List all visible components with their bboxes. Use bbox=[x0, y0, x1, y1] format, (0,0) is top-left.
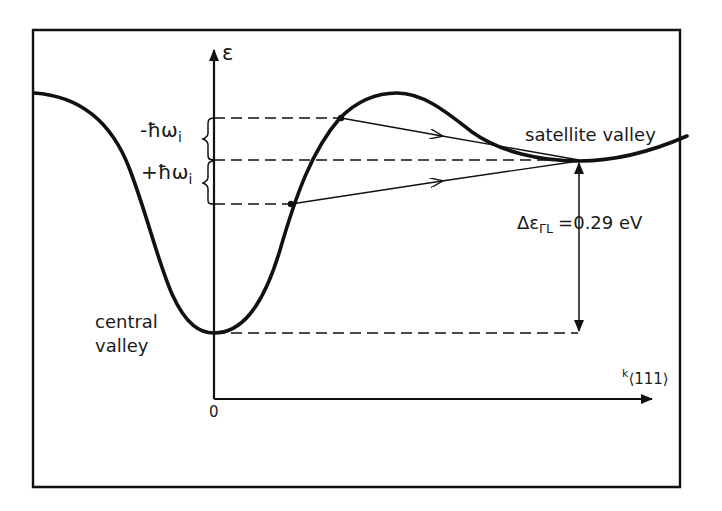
delta-value: =0.29 eV bbox=[558, 212, 642, 233]
x-axis-label-direction: ⟨111⟩ bbox=[628, 370, 668, 388]
x-axis-label-k: k bbox=[622, 367, 628, 380]
phonon-braces bbox=[203, 118, 214, 204]
plus-phonon-label: +ħωi bbox=[141, 162, 192, 186]
plus-phonon-subscript: i bbox=[188, 171, 192, 187]
x-axis-label: k⟨111⟩ bbox=[622, 372, 669, 387]
figure-frame bbox=[33, 30, 680, 487]
delta-subscript: ΓL bbox=[539, 221, 553, 236]
origin-label: 0 bbox=[209, 405, 219, 420]
delta-symbol: Δε bbox=[517, 212, 539, 233]
central-valley-label: centralvalley bbox=[95, 310, 158, 358]
transition-point-lower bbox=[288, 201, 294, 207]
energy-gap-label: ΔεΓL=0.29 eV bbox=[517, 214, 642, 236]
band-diagram bbox=[0, 0, 722, 511]
plus-phonon-text: +ħω bbox=[141, 160, 188, 184]
minus-phonon-text: -ħω bbox=[140, 118, 178, 142]
y-axis-label: ε bbox=[222, 43, 233, 64]
satellite-valley-label: satellite valley bbox=[525, 126, 656, 144]
central-valley-line2: valley bbox=[95, 334, 158, 358]
central-valley-line1: central bbox=[95, 310, 158, 334]
minus-phonon-label: -ħωi bbox=[140, 120, 182, 144]
transition-point-upper bbox=[338, 115, 344, 121]
minus-phonon-subscript: i bbox=[178, 129, 182, 145]
